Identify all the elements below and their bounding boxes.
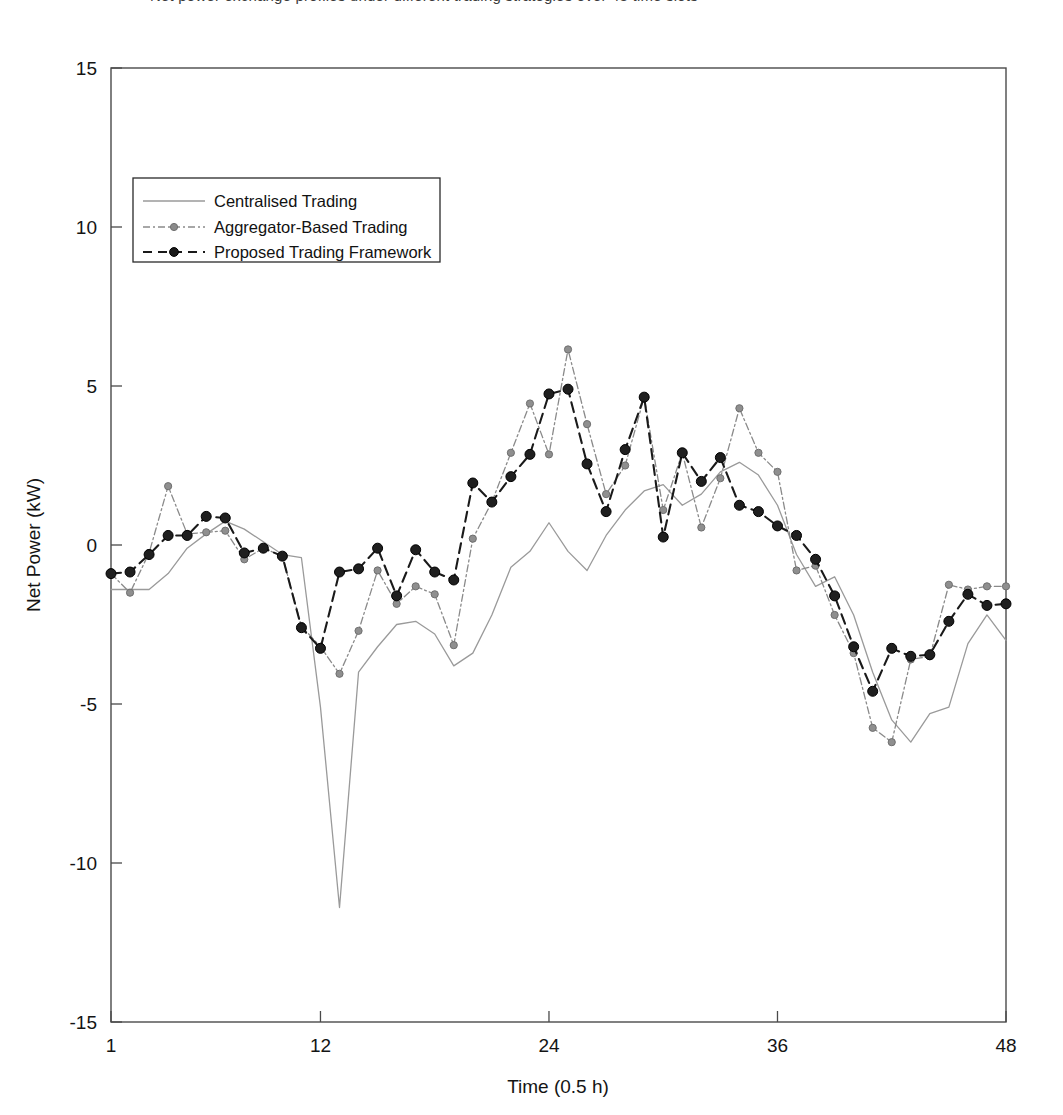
data-point-marker xyxy=(126,589,133,596)
y-tick-label: 5 xyxy=(86,376,97,397)
data-point-marker xyxy=(507,449,514,456)
y-axis-label: Net Power (kW) xyxy=(23,478,44,612)
data-point-marker xyxy=(736,405,743,412)
data-point-marker xyxy=(603,491,610,498)
data-point-marker xyxy=(201,511,211,521)
data-point-marker xyxy=(222,527,229,534)
data-point-marker xyxy=(753,507,763,517)
data-point-marker xyxy=(717,475,724,482)
x-tick-label: 36 xyxy=(767,1035,788,1056)
data-point-marker xyxy=(412,583,419,590)
data-point-marker xyxy=(336,670,343,677)
data-point-marker xyxy=(982,600,992,610)
data-point-marker xyxy=(469,535,476,542)
data-point-marker xyxy=(639,392,649,402)
data-point-marker xyxy=(944,616,954,626)
data-point-marker xyxy=(1002,583,1009,590)
data-point-marker xyxy=(831,611,838,618)
data-point-marker xyxy=(793,567,800,574)
data-point-marker xyxy=(620,445,630,455)
data-point-marker xyxy=(774,468,781,475)
data-point-marker xyxy=(544,389,554,399)
data-point-marker xyxy=(526,400,533,407)
data-point-marker xyxy=(165,483,172,490)
data-point-marker xyxy=(945,581,952,588)
chart-legend: Centralised Trading Aggregator-Based Tra… xyxy=(133,178,440,262)
data-point-marker xyxy=(622,462,629,469)
data-point-marker xyxy=(887,643,897,653)
data-point-marker xyxy=(658,532,668,542)
data-point-marker xyxy=(755,449,762,456)
data-point-marker xyxy=(163,530,173,540)
data-point-marker xyxy=(411,545,421,555)
data-point-marker xyxy=(525,449,535,459)
data-point-marker xyxy=(734,500,744,510)
data-point-marker xyxy=(677,448,687,458)
data-point-marker xyxy=(144,550,154,560)
data-point-marker xyxy=(772,521,782,531)
data-point-marker xyxy=(220,513,230,523)
x-tick-label: 12 xyxy=(310,1035,331,1056)
data-point-marker xyxy=(869,724,876,731)
data-point-marker xyxy=(450,642,457,649)
data-point-marker xyxy=(203,529,210,536)
data-point-marker xyxy=(601,507,611,517)
data-point-marker xyxy=(373,543,383,553)
data-point-marker xyxy=(355,627,362,634)
x-tick-label: 1 xyxy=(106,1035,117,1056)
data-point-marker xyxy=(583,421,590,428)
x-tick-label: 24 xyxy=(538,1035,560,1056)
data-point-marker xyxy=(430,567,440,577)
data-point-marker xyxy=(354,564,364,574)
data-point-marker xyxy=(582,459,592,469)
data-point-marker xyxy=(696,476,706,486)
data-point-marker xyxy=(811,554,821,564)
data-point-marker xyxy=(888,739,895,746)
data-point-marker xyxy=(715,453,725,463)
data-point-marker xyxy=(335,567,345,577)
data-point-marker xyxy=(106,569,116,579)
y-tick-label: 0 xyxy=(86,535,97,556)
data-point-marker xyxy=(830,591,840,601)
data-point-marker xyxy=(698,524,705,531)
data-point-marker xyxy=(468,478,478,488)
data-point-marker xyxy=(431,591,438,598)
data-point-marker xyxy=(449,575,459,585)
legend-swatch-black-marker xyxy=(170,248,179,257)
chart-figure: 151050-5-10-15 112243648 Time (0.5 h) Ne… xyxy=(0,0,1063,1115)
y-tick-label: -10 xyxy=(70,853,97,874)
legend-label-proposed: Proposed Trading Framework xyxy=(214,243,432,261)
data-point-marker xyxy=(125,567,135,577)
data-point-marker xyxy=(792,530,802,540)
data-point-marker xyxy=(258,543,268,553)
data-point-marker xyxy=(374,567,381,574)
legend-label-centralised: Centralised Trading xyxy=(214,192,357,210)
figure-root: Net power exchange profiles under differ… xyxy=(0,0,1063,1115)
data-point-marker xyxy=(296,623,306,633)
y-tick-label: -5 xyxy=(80,694,97,715)
data-point-marker xyxy=(487,497,497,507)
data-point-marker xyxy=(983,583,990,590)
data-point-marker xyxy=(277,551,287,561)
data-point-marker xyxy=(315,643,325,653)
data-point-marker xyxy=(868,686,878,696)
y-tick-label: 10 xyxy=(76,217,97,238)
data-point-marker xyxy=(564,346,571,353)
data-point-marker xyxy=(1001,599,1011,609)
net-power-line-chart: 151050-5-10-15 112243648 Time (0.5 h) Ne… xyxy=(0,0,1063,1115)
data-point-marker xyxy=(563,384,573,394)
data-point-marker xyxy=(182,530,192,540)
data-point-marker xyxy=(849,642,859,652)
y-tick-label: -15 xyxy=(70,1012,97,1033)
y-tick-label: 15 xyxy=(76,58,97,79)
legend-label-aggregator: Aggregator-Based Trading xyxy=(214,218,408,236)
data-point-marker xyxy=(506,472,516,482)
data-point-marker xyxy=(545,451,552,458)
data-point-marker xyxy=(906,651,916,661)
x-axis-label: Time (0.5 h) xyxy=(507,1076,609,1097)
data-point-marker xyxy=(239,548,249,558)
x-tick-label: 48 xyxy=(995,1035,1016,1056)
data-point-marker xyxy=(392,591,402,601)
data-point-marker xyxy=(925,650,935,660)
legend-swatch-gray-marker xyxy=(170,223,177,230)
